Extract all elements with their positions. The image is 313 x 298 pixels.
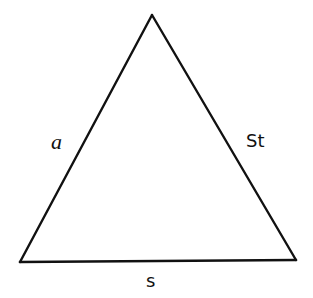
triangle-canvas bbox=[0, 0, 313, 298]
label-left-side: a bbox=[51, 131, 62, 153]
triangle-side-bottom bbox=[20, 260, 296, 262]
label-right-side: St bbox=[246, 132, 264, 150]
triangle-side-right bbox=[152, 15, 296, 260]
label-bottom-side: s bbox=[146, 272, 155, 290]
triangle-side-left bbox=[20, 15, 152, 262]
